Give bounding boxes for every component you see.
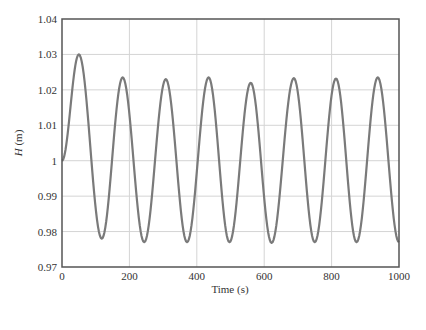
x-axis-ticks: 02004006008001000 bbox=[59, 270, 410, 282]
y-axis-unit: (m) bbox=[12, 129, 25, 148]
x-tick-label: 800 bbox=[323, 270, 340, 282]
x-axis-label: Time (s) bbox=[211, 283, 249, 296]
y-tick-label: 1.03 bbox=[38, 48, 58, 60]
x-tick-label: 200 bbox=[121, 270, 138, 282]
x-tick-label: 1000 bbox=[388, 270, 411, 282]
data-series-h bbox=[62, 54, 399, 242]
y-tick-label: 1.02 bbox=[38, 84, 57, 96]
y-tick-label: 0.97 bbox=[38, 261, 58, 273]
y-tick-label: 1.01 bbox=[38, 119, 57, 131]
x-tick-label: 600 bbox=[256, 270, 273, 282]
h-line bbox=[62, 54, 399, 242]
y-axis-ticks: 0.970.980.9911.011.021.031.04 bbox=[38, 13, 58, 273]
y-tick-label: 0.99 bbox=[38, 190, 58, 202]
y-tick-label: 1.04 bbox=[38, 13, 58, 25]
y-tick-label: 1 bbox=[52, 155, 58, 167]
x-tick-label: 0 bbox=[59, 270, 65, 282]
line-chart: 02004006008001000 0.970.980.9911.011.021… bbox=[0, 0, 426, 330]
y-tick-label: 0.98 bbox=[38, 226, 58, 238]
y-axis-label: H (m) bbox=[12, 129, 25, 157]
x-tick-label: 400 bbox=[189, 270, 206, 282]
